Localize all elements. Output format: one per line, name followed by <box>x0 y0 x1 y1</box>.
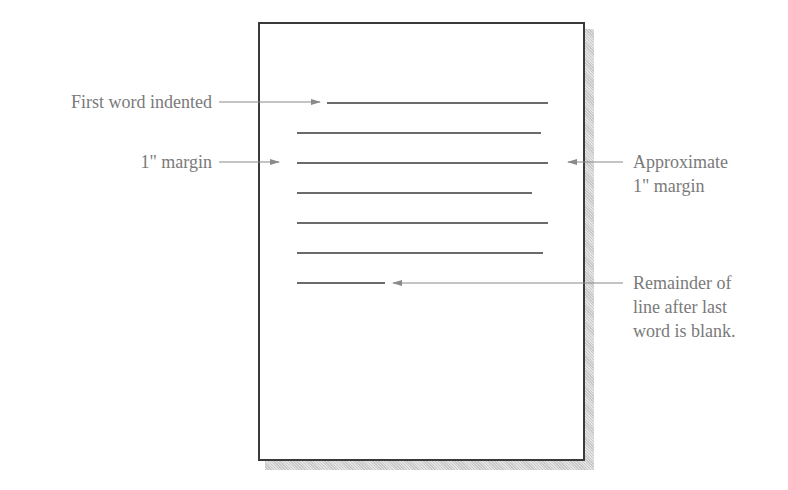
label-right-margin: Approximate 1" margin <box>633 150 728 198</box>
diagram-lines <box>0 0 788 490</box>
paragraph-text-lines <box>297 103 548 283</box>
label-remainder-line1: Remainder of <box>633 271 736 295</box>
label-remainder-line2: line after last <box>633 295 736 319</box>
label-right-margin-line2: 1" margin <box>633 174 728 198</box>
label-remainder-line3: word is blank. <box>633 319 736 343</box>
label-first-word-indented: First word indented <box>71 90 212 114</box>
label-remainder-blank: Remainder of line after last word is bla… <box>633 271 736 343</box>
label-left-margin: 1" margin <box>140 150 212 174</box>
label-right-margin-line1: Approximate <box>633 150 728 174</box>
